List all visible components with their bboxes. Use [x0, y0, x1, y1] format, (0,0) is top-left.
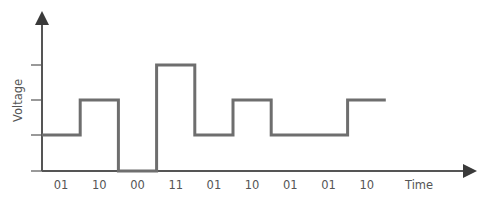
- x-axis-label: Time: [404, 178, 433, 192]
- x-category-label: 01: [207, 178, 222, 192]
- x-category-label: 10: [245, 178, 260, 192]
- signal-waveform: [42, 65, 386, 171]
- x-axis-arrow-icon: [463, 164, 477, 178]
- x-category-label: 01: [283, 178, 298, 192]
- x-category-label: 10: [92, 178, 107, 192]
- x-category-label: 01: [321, 178, 336, 192]
- pulse-amplitude-chart: 011000110110010110 Time Voltage: [0, 0, 483, 199]
- x-category-label: 11: [168, 178, 183, 192]
- y-axis-arrow-icon: [35, 11, 49, 25]
- x-category-label: 10: [359, 178, 374, 192]
- y-axis-label: Voltage: [11, 79, 25, 122]
- y-axis-ticks: [31, 65, 42, 171]
- x-category-label: 00: [130, 178, 145, 192]
- x-category-labels: 011000110110010110: [54, 178, 374, 192]
- x-category-label: 01: [54, 178, 69, 192]
